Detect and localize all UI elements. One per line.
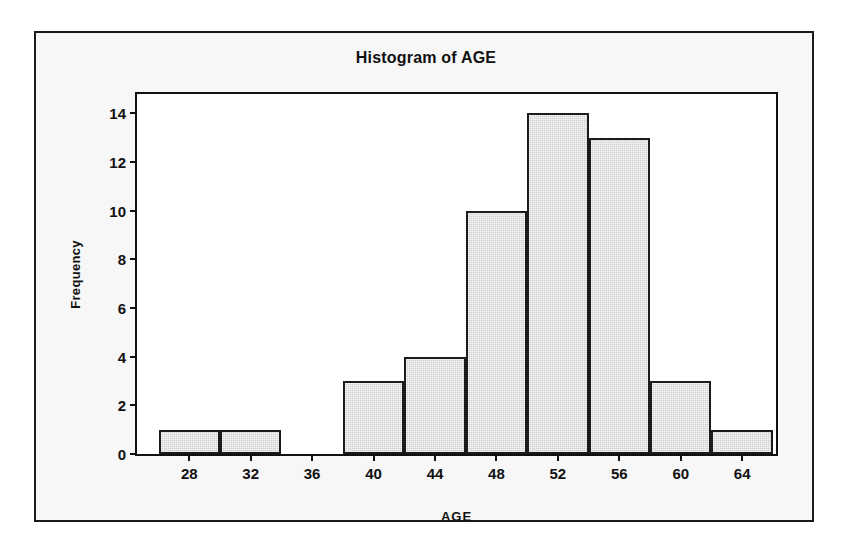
x-axis-tick [495, 454, 497, 461]
histogram-bars [137, 94, 776, 454]
y-axis-tick [130, 210, 137, 212]
histogram-bar [220, 430, 281, 454]
x-axis-tick [741, 454, 743, 461]
x-axis-tick [188, 454, 190, 461]
screenshot-root: Histogram of AGE 02468101214 28323640444… [0, 0, 841, 556]
x-axis-tick-label: 32 [242, 465, 259, 482]
x-axis-tick-label: 36 [304, 465, 321, 482]
x-axis-tick [434, 454, 436, 461]
y-axis-tick [130, 307, 137, 309]
y-axis-tick [130, 356, 137, 358]
y-axis-title-text: Frequency [68, 240, 83, 308]
x-axis-tick [618, 454, 620, 461]
chart-title: Histogram of AGE [36, 49, 816, 67]
histogram-bar [159, 430, 220, 454]
x-axis-tick-label: 44 [427, 465, 444, 482]
x-axis-tick [250, 454, 252, 461]
y-axis-tick-label: 14 [109, 105, 126, 122]
y-axis-tick [130, 453, 137, 455]
histogram-bar [589, 138, 650, 454]
y-axis-title: Frequency [64, 92, 86, 456]
y-axis-tick-label: 8 [118, 251, 126, 268]
y-axis-tick-label: 4 [118, 348, 126, 365]
y-axis-tick-label: 10 [109, 202, 126, 219]
chart-frame: Histogram of AGE 02468101214 28323640444… [34, 31, 814, 522]
x-axis-tick-label: 28 [181, 465, 198, 482]
histogram-bar [650, 381, 711, 454]
plot-area: 02468101214 28323640444852566064 [135, 92, 778, 456]
histogram-bar [404, 357, 465, 454]
x-axis-tick [680, 454, 682, 461]
histogram-bar [527, 113, 588, 454]
x-axis-tick-label: 56 [611, 465, 628, 482]
y-axis-tick [130, 161, 137, 163]
y-axis-tick-label: 2 [118, 397, 126, 414]
y-axis-tick [130, 112, 137, 114]
x-axis-title: AGE [135, 509, 778, 524]
x-axis-tick [311, 454, 313, 461]
histogram-bar [711, 430, 772, 454]
x-axis-tick-label: 52 [550, 465, 567, 482]
y-axis-tick-label: 12 [109, 154, 126, 171]
x-axis-tick [557, 454, 559, 461]
y-axis-tick-label: 0 [118, 446, 126, 463]
histogram-bar [343, 381, 404, 454]
x-axis-tick-label: 48 [488, 465, 505, 482]
x-axis-tick-label: 40 [365, 465, 382, 482]
y-axis-tick [130, 258, 137, 260]
x-axis-tick [373, 454, 375, 461]
x-axis-tick-label: 64 [734, 465, 751, 482]
y-axis-tick-label: 6 [118, 300, 126, 317]
x-axis-tick-label: 60 [672, 465, 689, 482]
histogram-bar [466, 211, 527, 454]
y-axis-tick [130, 404, 137, 406]
